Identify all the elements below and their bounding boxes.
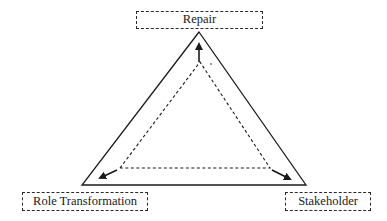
diagram-canvas: Repair Role Transformation Stakeholder [0,0,387,221]
node-repair: Repair [136,11,263,29]
arrow-to-role-transformation [100,170,117,178]
arrow-to-stakeholder [272,170,290,179]
inner-dashed-triangle [120,62,270,168]
node-stakeholder: Stakeholder [285,192,371,211]
node-role-transformation: Role Transformation [22,192,148,211]
node-role-transformation-label: Role Transformation [33,194,137,208]
outer-triangle [82,32,306,185]
apex-dot [210,63,212,65]
triangle-diagram [0,0,387,221]
node-repair-label: Repair [183,12,216,26]
node-stakeholder-label: Stakeholder [298,194,358,208]
